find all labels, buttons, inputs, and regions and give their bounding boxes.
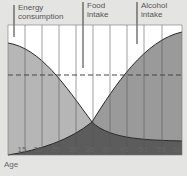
x-tick-20: 20 [34,145,43,154]
alcohol-label-line2: intake [141,10,167,19]
x-tick-45: 45 [120,145,129,154]
x-tick-15: 15 [18,145,27,154]
x-tick-25: 25 [52,145,61,154]
energy-label-line1: Energy [18,3,63,12]
food-label-line2: intake [87,10,108,19]
x-tick-55: 55 [157,145,166,154]
x-tick-40: 40 [103,145,112,154]
x-tick-30: 30 [69,145,78,154]
x-tick-35: 35 [86,145,95,154]
energy-label-line2: consumption [18,12,63,21]
alcohol-label-line1: Alcohol [141,1,167,10]
energy-consumption-label: Energy consumption [18,3,63,21]
food-intake-label: Food intake [87,1,108,19]
x-tick-50: 50 [139,145,148,154]
alcohol-intake-label: Alcohol intake [141,1,167,19]
x-axis-label: Age [4,160,18,169]
food-label-line1: Food [87,1,108,10]
x-tick-60: 60 [173,145,182,154]
